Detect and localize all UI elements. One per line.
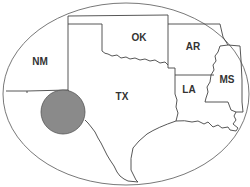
state-label-ok: OK — [132, 33, 147, 43]
state-label-la: LA — [182, 85, 195, 95]
state-label-tx: TX — [116, 92, 129, 102]
highlight-circle — [41, 90, 85, 134]
state-label-ms: MS — [220, 75, 235, 85]
state-border-nm — [27, 16, 68, 91]
state-border-tx — [6, 90, 176, 182]
state-label-nm: NM — [32, 57, 48, 67]
state-border-ok — [68, 15, 168, 68]
state-label-ar: AR — [186, 42, 200, 52]
